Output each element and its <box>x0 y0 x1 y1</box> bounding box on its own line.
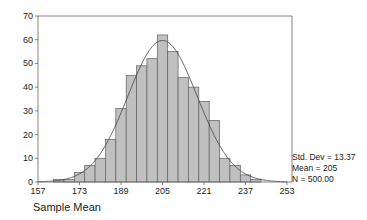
x-tick-label: 157 <box>30 186 45 196</box>
x-tick-label: 221 <box>196 186 211 196</box>
histogram-bar <box>230 165 240 182</box>
std-dev-stat: Std. Dev = 13.37 <box>292 152 356 163</box>
histogram-bar <box>105 139 115 182</box>
histogram-bar <box>85 165 95 182</box>
x-tick-label: 237 <box>238 186 253 196</box>
histogram-bar <box>157 35 167 182</box>
histogram-bar <box>137 66 147 182</box>
x-axis-label: Sample Mean <box>33 201 101 213</box>
y-tick-label: 10 <box>23 153 33 163</box>
stats-legend: Std. Dev = 13.37 Mean = 205 N = 500.00 <box>292 152 356 185</box>
n-stat: N = 500.00 <box>292 174 356 185</box>
histogram-bar <box>220 158 230 182</box>
y-tick-label: 70 <box>23 11 33 21</box>
x-axis-ticks: 157173189205221237253 <box>30 182 294 196</box>
histogram-bar <box>116 108 126 182</box>
y-tick-label: 40 <box>23 82 33 92</box>
mean-stat: Mean = 205 <box>292 163 356 174</box>
x-tick-label: 253 <box>279 186 294 196</box>
histogram-bar <box>188 87 198 182</box>
x-tick-label: 173 <box>72 186 87 196</box>
x-tick-label: 189 <box>113 186 128 196</box>
y-tick-label: 30 <box>23 106 33 116</box>
x-tick-label: 205 <box>155 186 170 196</box>
y-axis-ticks: 010203040506070 <box>23 11 38 187</box>
histogram-bar <box>126 75 136 182</box>
histogram-bar <box>95 158 105 182</box>
histogram-bar <box>147 59 157 182</box>
y-tick-label: 50 <box>23 58 33 68</box>
y-tick-label: 60 <box>23 35 33 45</box>
histogram-bars <box>54 35 262 182</box>
y-tick-label: 20 <box>23 130 33 140</box>
histogram-bar <box>168 52 178 182</box>
histogram-bar <box>178 78 188 182</box>
histogram-bar <box>209 120 219 182</box>
